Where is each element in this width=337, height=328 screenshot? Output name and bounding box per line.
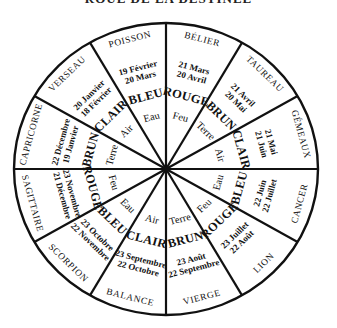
wheel-hub (163, 166, 169, 172)
zodiac-wheel: BÉLIER21 Mars20 AvrilROUGEFeuTAUREAU21 A… (0, 0, 337, 328)
